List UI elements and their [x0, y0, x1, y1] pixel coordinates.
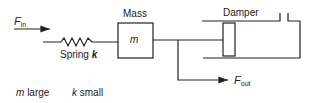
input-force-label: Fin	[14, 16, 26, 28]
note-mass: m large	[16, 88, 49, 98]
damper-label: Damper	[223, 8, 259, 18]
spring-label: Spring k	[60, 50, 97, 60]
mass-label: Mass	[123, 9, 147, 19]
damper-piston	[223, 23, 235, 56]
mass-symbol: m	[130, 35, 138, 45]
output-force-label: Fout	[234, 75, 250, 87]
spring	[43, 38, 118, 46]
output-force-arrow	[178, 40, 228, 80]
note-spring: k small	[72, 88, 103, 98]
